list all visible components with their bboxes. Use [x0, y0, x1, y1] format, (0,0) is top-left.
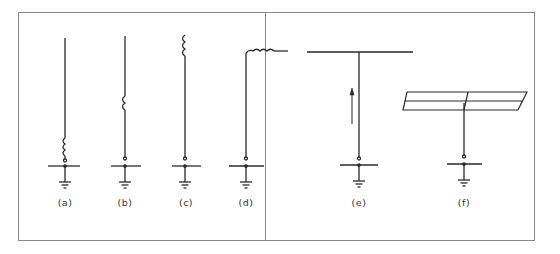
label-e: (e) — [352, 197, 367, 208]
frame-left — [19, 13, 266, 241]
loading-coil-icon — [63, 138, 65, 156]
panel-f — [403, 92, 527, 186]
ground-icon — [119, 182, 131, 188]
label-d: (d) — [239, 197, 254, 208]
loading-coil-icon — [246, 49, 274, 53]
ground-icon — [59, 182, 71, 188]
panel-b — [111, 36, 141, 188]
label-f: (f) — [458, 197, 470, 208]
feed-terminal-icon — [64, 159, 67, 162]
current-arrow-icon — [350, 88, 354, 124]
ground-icon — [179, 182, 191, 188]
label-b: (b) — [118, 197, 133, 208]
loading-coil-icon — [183, 35, 186, 56]
ground-icon — [353, 181, 365, 187]
feed-terminal-icon — [124, 157, 127, 160]
feed-terminal-icon — [245, 157, 248, 160]
panel-e — [307, 52, 413, 187]
label-c: (c) — [179, 197, 193, 208]
panel-d — [229, 49, 288, 188]
top-hat-plate-icon — [403, 92, 527, 110]
label-a: (a) — [58, 197, 73, 208]
ground-icon — [240, 182, 252, 188]
antenna-diagram: (a) (b) (c) (d) (e) (f) — [0, 0, 560, 254]
loading-coil-icon — [123, 96, 126, 110]
feed-terminal-icon — [184, 157, 187, 160]
panel-a — [48, 38, 80, 188]
ground-icon — [458, 180, 470, 186]
panel-c — [172, 35, 201, 188]
feed-terminal-icon — [358, 157, 361, 160]
feed-terminal-icon — [463, 155, 466, 158]
